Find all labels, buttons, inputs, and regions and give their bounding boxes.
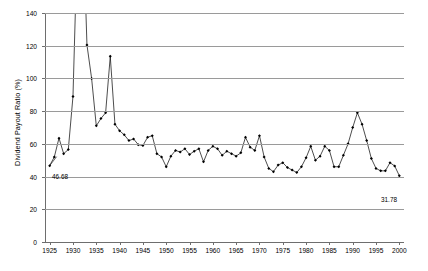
x-tick-mark-1980 [306,242,307,245]
y-tick-label-120: 120 [0,42,37,49]
gridline-y-100 [45,78,404,79]
data-series-line [45,13,404,242]
y-tick-label-100: 100 [0,75,37,82]
data-point-1964 [230,152,233,155]
data-point-1971 [263,155,266,158]
y-tick-label-40: 40 [0,173,37,180]
y-tick-label-80: 80 [0,108,37,115]
gridline-y-120 [45,46,404,47]
x-tick-mark-1930 [73,242,74,245]
data-point-1957 [197,147,200,150]
data-point-1927 [57,137,60,140]
x-tick-mark-1965 [236,242,237,245]
x-tick-mark-2000 [399,242,400,245]
x-tick-label-2000: 2000 [382,247,416,254]
data-point-1967 [244,136,247,139]
data-point-1986 [333,165,336,168]
y-tick-mark-80 [42,111,45,112]
gridline-y-20 [45,209,404,210]
data-point-1950 [165,165,168,168]
data-point-1987 [337,165,340,168]
x-tick-mark-1975 [283,242,284,245]
x-tick-mark-1925 [50,242,51,245]
data-point-1996 [379,169,382,172]
x-tick-mark-1985 [329,242,330,245]
data-point-1990 [351,126,354,129]
data-point-1977 [291,169,294,172]
data-point-1995 [375,167,378,170]
x-tick-mark-1960 [213,242,214,245]
gridline-y-60 [45,144,404,145]
data-point-1946 [146,136,149,139]
data-point-1938 [109,55,112,58]
dividend-payout-ratio-chart: Dividend Payout Ratio (%) 02040608010012… [0,0,428,271]
data-point-1958 [202,160,205,163]
x-tick-mark-1995 [376,242,377,245]
x-tick-mark-1935 [96,242,97,245]
y-tick-label-0: 0 [0,239,37,246]
series-polyline [50,13,400,176]
plot-area [45,13,404,242]
y-tick-mark-120 [42,46,45,47]
data-point-1980 [305,156,308,159]
data-point-1947 [151,134,154,137]
data-point-1992 [361,123,364,126]
data-point-1970 [258,134,261,137]
x-tick-mark-1955 [190,242,191,245]
y-tick-mark-140 [42,13,45,14]
y-tick-label-140: 140 [0,10,37,17]
start-value-label: 46.68 [52,173,68,180]
data-point-1930 [71,95,74,98]
x-tick-mark-1990 [353,242,354,245]
y-tick-mark-40 [42,177,45,178]
data-point-1994 [370,157,373,160]
end-value-label: 31.78 [381,196,397,203]
y-tick-mark-60 [42,144,45,145]
x-tick-mark-1950 [166,242,167,245]
data-point-1993 [365,139,368,142]
start-annotation-leader [50,157,57,166]
gridline-y-140 [45,13,404,14]
x-axis-line [45,242,404,243]
y-tick-label-60: 60 [0,140,37,147]
y-tick-mark-20 [42,209,45,210]
x-tick-mark-1940 [120,242,121,245]
data-point-1988 [342,154,345,157]
y-tick-label-20: 20 [0,206,37,213]
y-tick-mark-0 [42,242,45,243]
data-point-1997 [384,169,387,172]
gridline-y-80 [45,111,404,112]
y-axis-title-container: Dividend Payout Ratio (%) [0,0,26,271]
y-tick-mark-100 [42,78,45,79]
x-tick-mark-1945 [143,242,144,245]
gridline-y-40 [45,177,404,178]
x-tick-mark-1970 [259,242,260,245]
data-point-1981 [309,145,312,148]
